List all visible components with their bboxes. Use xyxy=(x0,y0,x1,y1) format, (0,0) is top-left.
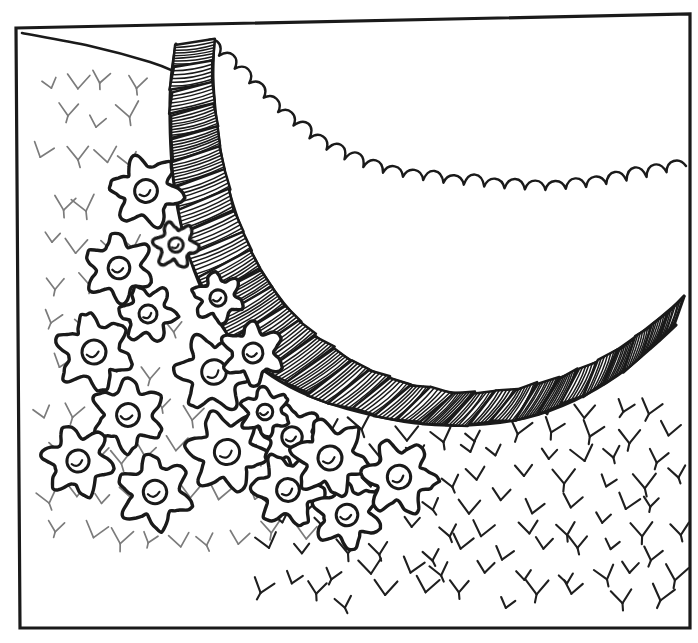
grass-tick-stem xyxy=(162,408,164,413)
grass-tick-stem xyxy=(119,544,121,552)
flower-center xyxy=(386,464,412,490)
grass-tick-stem xyxy=(622,603,623,610)
flower-center xyxy=(201,359,226,384)
grass-tick-stem xyxy=(641,536,643,544)
flower-center xyxy=(168,237,184,253)
illustration-stage: e xyxy=(0,0,698,643)
grass-tick-stem xyxy=(563,484,565,492)
flower-center xyxy=(276,478,301,503)
grass-tick-stem xyxy=(674,580,675,588)
grass-tick-stem xyxy=(649,507,650,512)
grass-tick-stem xyxy=(459,592,460,599)
flower-center xyxy=(138,304,158,324)
garden-wall-illustration xyxy=(0,0,698,643)
flower-center xyxy=(213,438,241,466)
grass-tick-stem xyxy=(316,594,317,601)
grass-tick-stem xyxy=(99,83,101,89)
grass-tick-stem xyxy=(613,458,614,464)
